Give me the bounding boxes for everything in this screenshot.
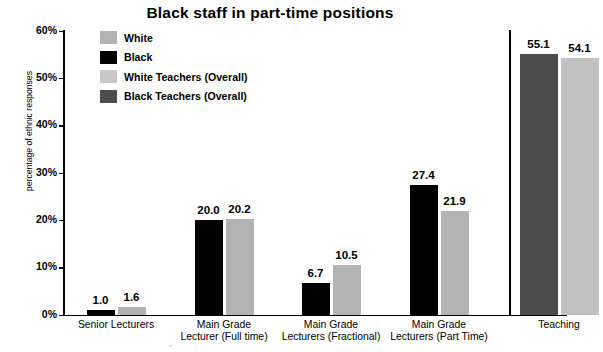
legend-item: Black: [100, 48, 247, 68]
x-axis-category-line: Main Grade: [379, 319, 499, 331]
y-axis-tick-mark: [59, 125, 63, 127]
y-axis-label: percentage of ethnic responses: [24, 41, 34, 221]
y-axis-tick-mark: [59, 220, 63, 222]
y-axis-tick-label: 50%: [23, 71, 57, 83]
x-axis-category-label: Main GradeLecturers (Part Time): [379, 319, 499, 342]
x-axis-category-label: Main GradeLecturer (Full time): [164, 319, 284, 342]
legend-item: Black Teachers (Overall): [100, 87, 247, 107]
footnote: ': [170, 344, 171, 351]
bar-value-label: 6.7: [296, 267, 336, 279]
legend-item: White Teachers (Overall): [100, 67, 247, 87]
y-axis-tick-mark: [59, 31, 63, 33]
bar-black: [87, 310, 115, 315]
bar-value-label: 21.9: [435, 195, 475, 207]
y-axis-tick-label: 40%: [23, 118, 57, 130]
y-axis-tick-label: 60%: [23, 24, 57, 36]
x-axis-category-line: Main Grade: [164, 319, 284, 331]
legend-item: White: [100, 28, 247, 48]
y-axis-tick-label: 30%: [23, 166, 57, 178]
bar-white: [226, 219, 254, 315]
legend-swatch: [100, 31, 117, 44]
y-axis-tick-label: 10%: [23, 260, 57, 272]
panel-divider-line: [509, 30, 511, 316]
legend-label: White Teachers (Overall): [124, 71, 247, 83]
x-axis-line: [63, 315, 567, 317]
bar-value-label: 1.6: [112, 291, 152, 303]
bar-black: [195, 220, 223, 315]
legend-label: Black Teachers (Overall): [124, 90, 247, 102]
bar-white: [441, 211, 469, 315]
legend-swatch: [100, 90, 117, 103]
y-axis-tick-mark: [59, 315, 63, 317]
y-axis-tick-mark: [59, 78, 63, 80]
y-axis-tick-mark: [59, 173, 63, 175]
bar-value-label: 10.5: [327, 249, 367, 261]
x-axis-category-line: Main Grade: [271, 319, 391, 331]
bar-value-label: 27.4: [404, 169, 444, 181]
x-axis-category-line: Lecturers (Fractional): [271, 331, 391, 343]
y-axis-line: [63, 30, 65, 316]
x-axis-category-line: Senior Lecturers: [56, 319, 176, 331]
bar-white: [118, 307, 146, 315]
legend-label: White: [124, 32, 153, 44]
chart-legend: WhiteBlackWhite Teachers (Overall)Black …: [100, 28, 247, 106]
x-axis-category-label: Main GradeLecturers (Fractional): [271, 319, 391, 342]
legend-label: Black: [124, 51, 152, 63]
bar-white: [333, 265, 361, 315]
bar-white-teachers-overall: [561, 58, 599, 314]
bar-black: [302, 283, 330, 315]
y-axis-tick-mark: [59, 267, 63, 269]
chart-title: Black staff in part-time positions: [60, 4, 480, 22]
x-axis-category-line: Lecturers (Part Time): [379, 331, 499, 343]
y-axis-tick-label: 20%: [23, 213, 57, 225]
legend-swatch: [100, 51, 117, 64]
x-axis-category-line: Teaching: [499, 319, 603, 331]
bar-value-label: 54.1: [555, 42, 603, 54]
bar-value-label: 20.2: [220, 203, 260, 215]
x-axis-category-label: Senior Lecturers: [56, 319, 176, 331]
x-axis-category-line: Lecturer (Full time): [164, 331, 284, 343]
bar-black: [410, 185, 438, 315]
y-axis-tick-label: 0%: [23, 308, 57, 320]
bar-black-teachers-overall: [520, 54, 558, 315]
x-axis-category-label: Teaching: [499, 319, 603, 331]
legend-swatch: [100, 70, 117, 83]
